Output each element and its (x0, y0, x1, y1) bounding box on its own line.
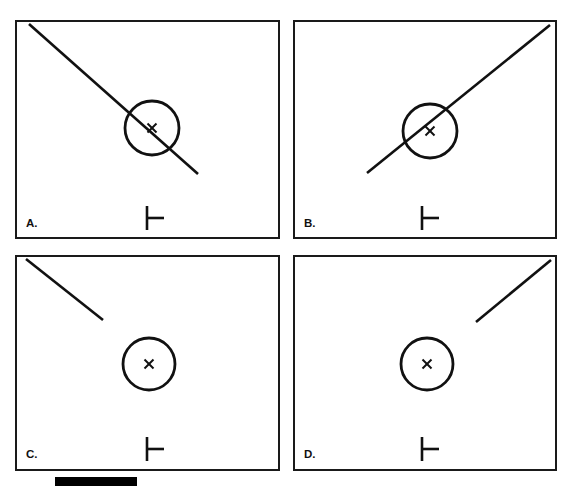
scale-bar (55, 477, 137, 486)
panel-a-label: A. (26, 217, 38, 229)
figure-container: A. B. C. D. (0, 0, 571, 488)
figure-canvas: A. B. C. D. (0, 0, 571, 488)
panel-a: A. (16, 21, 279, 238)
panel-b-label: B. (304, 217, 316, 229)
panel-d: D. (294, 256, 556, 470)
panel-c-label: C. (26, 448, 38, 460)
panel-c: C. (16, 256, 279, 470)
panel-d-label: D. (304, 448, 316, 460)
panel-b: B. (294, 21, 556, 238)
